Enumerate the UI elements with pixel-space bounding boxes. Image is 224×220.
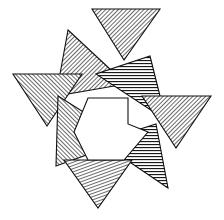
figure-canvas: [0, 0, 224, 220]
triangle-compound-illustration: [0, 0, 224, 220]
